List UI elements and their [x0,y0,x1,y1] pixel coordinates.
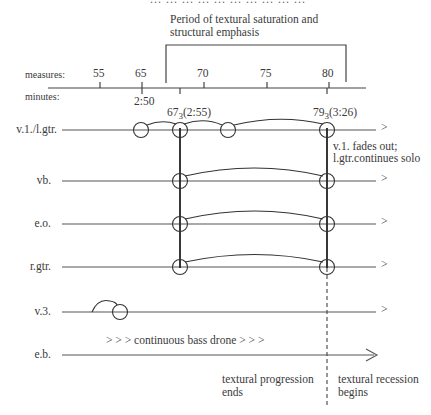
minute-label-67-3: 673(2:55) [167,106,211,118]
minute-label-79-time: (3:26) [329,106,357,118]
cropped-header-text: ... ... ... ... ... ... ... ... ... ... [150,0,306,7]
row-end-eo: > [381,215,388,227]
row-end-rgtr: > [381,258,388,270]
row-label-vb: vb. [37,174,51,186]
v1-fade-note-line1: v.1. fades out; [333,140,397,152]
row-label-eb: e.b. [34,348,51,360]
event-circles [92,119,335,319]
measure-tick-75: 75 [260,67,272,79]
vertical-markers [180,128,327,268]
minute-label-67-sub: 3 [179,111,184,121]
texture-diagram [0,0,431,415]
measure-tick-70: 70 [197,67,209,79]
timeline-axis [48,82,366,94]
v1-fade-note-line2: l.gtr.continues solo [333,152,420,164]
progression-note-line2: ends [222,386,243,398]
minutes-label: minutes: [25,91,59,102]
bracket-label-line2: structural emphasis [170,26,259,38]
minute-label-2-50: 2:50 [134,95,154,107]
row-label-rgtr: r.gtr. [30,260,51,272]
saturation-bracket [166,45,346,83]
row-end-vb: > [381,172,388,184]
minute-label-79-main: 79 [313,106,325,118]
bracket-label-line1: Period of textural saturation and [170,13,318,25]
minute-label-67-main: 67 [167,106,179,118]
row-label-eo: e.o. [34,217,51,229]
row-label-v3: v.3. [34,305,51,317]
recession-note-line1: textural recession [338,373,419,385]
minute-label-79-3: 793(3:26) [313,106,357,118]
minute-label-79-sub: 3 [325,111,330,121]
drone-note: > > > continuous bass drone > > > [106,334,264,346]
minute-label-67-time: (2:55) [183,106,211,118]
measure-tick-55: 55 [93,67,105,79]
recession-note-line2: begins [338,386,368,398]
measure-tick-65: 65 [135,67,147,79]
instrument-lines [62,130,377,361]
row-end-v3: > [381,303,388,315]
measures-label: measures: [25,69,65,80]
row-end-v1: > [381,121,388,133]
progression-note-line1: textural progression [222,373,314,385]
row-label-v1-lgtr: v.1./l.gtr. [16,123,57,135]
measure-tick-80: 80 [322,67,334,79]
